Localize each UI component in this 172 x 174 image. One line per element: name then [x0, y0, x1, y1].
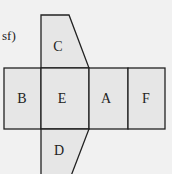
corner-label: sf) — [2, 28, 16, 44]
face-d-shape — [41, 129, 89, 174]
face-c-label: C — [53, 39, 62, 55]
face-b-label: B — [17, 91, 26, 107]
face-c-shape — [41, 15, 89, 68]
net-shapes — [0, 0, 172, 174]
face-a-label: A — [101, 91, 111, 107]
face-d-label: D — [54, 143, 64, 159]
face-f-label: F — [142, 91, 150, 107]
face-e-label: E — [58, 91, 67, 107]
